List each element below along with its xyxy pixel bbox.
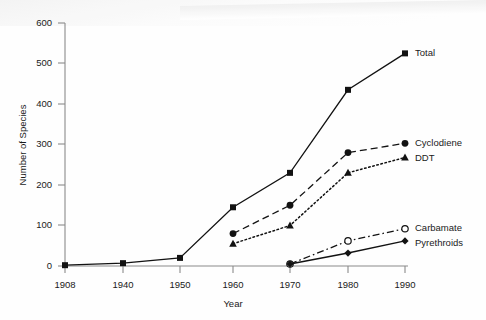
x-axis	[65, 266, 408, 273]
datapoint-total-1980	[345, 87, 351, 93]
legend-label-pyrethroids: Pyrethroids	[415, 237, 463, 248]
series-cyclodiene	[230, 140, 409, 237]
datapoint-pyrethroids-1980	[344, 249, 351, 256]
datapoint-carbamate-1990	[402, 226, 408, 232]
y-axis-title: Number of Species	[17, 104, 28, 185]
series-line-ddt	[233, 158, 405, 244]
datapoint-total-1940	[120, 260, 126, 266]
y-axis	[58, 23, 65, 266]
datapoint-cyclodiene-1980	[345, 149, 352, 156]
y-tick-200: 200	[36, 179, 52, 190]
chart-page: 600 500 400 300 200 100 0 1908 1940 1950…	[0, 0, 486, 320]
x-tick-1960: 1960	[222, 279, 243, 290]
datapoint-cyclodiene-1970	[287, 202, 294, 209]
datapoint-carbamate-1980	[345, 238, 351, 244]
datapoint-total-1960	[230, 204, 236, 210]
x-tick-1908: 1908	[54, 279, 75, 290]
datapoint-total-1970	[287, 170, 293, 176]
datapoint-total-1908	[62, 262, 68, 268]
x-tick-1970: 1970	[279, 279, 300, 290]
y-tick-0: 0	[47, 260, 52, 271]
line-chart: 600 500 400 300 200 100 0 1908 1940 1950…	[0, 0, 486, 320]
datapoint-pyrethroids-1990	[401, 237, 408, 244]
series-ddt	[229, 153, 409, 246]
datapoint-total-1950	[177, 255, 183, 261]
y-tick-100: 100	[36, 219, 52, 230]
y-tick-300: 300	[36, 138, 52, 149]
series-plot-area	[62, 50, 409, 268]
datapoint-total-1990	[402, 50, 408, 56]
y-tick-500: 500	[36, 57, 52, 68]
x-tick-1980: 1980	[337, 279, 358, 290]
y-tick-600: 600	[36, 17, 52, 28]
x-tick-1950: 1950	[169, 279, 190, 290]
x-axis-title: Year	[223, 298, 242, 309]
datapoint-cyclodiene-1990	[402, 140, 409, 147]
y-tick-400: 400	[36, 98, 52, 109]
series-line-cyclodiene	[233, 143, 405, 233]
x-tick-1990: 1990	[394, 279, 415, 290]
datapoint-ddt-1990	[401, 153, 409, 160]
legend-label-carbamate: Carbamate	[415, 222, 462, 233]
series-line-carbamate	[290, 229, 405, 264]
datapoint-cyclodiene-1960	[230, 230, 237, 237]
legend-label-cyclodiene: Cyclodiene	[415, 137, 462, 148]
datapoint-ddt-1960	[229, 240, 237, 247]
legend-label-total: Total	[415, 47, 435, 58]
legend-label-ddt: DDT	[415, 152, 435, 163]
x-tick-1940: 1940	[112, 279, 133, 290]
